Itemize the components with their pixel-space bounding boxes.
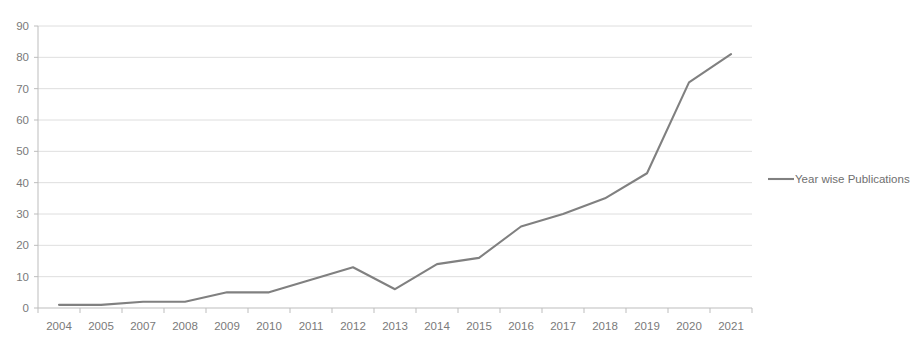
legend-label: Year wise Publications xyxy=(795,173,910,185)
line-chart: 0102030405060708090 20042005200720082009… xyxy=(0,0,924,341)
x-tick-label: 2009 xyxy=(214,320,240,332)
y-tick-label: 20 xyxy=(16,239,29,251)
x-axis-tick-labels: 2004200520072008200920102011201220132014… xyxy=(46,320,744,332)
x-tick-label: 2017 xyxy=(550,320,576,332)
x-tick-label: 2005 xyxy=(88,320,114,332)
x-tick-label: 2007 xyxy=(130,320,156,332)
x-tick-label: 2010 xyxy=(256,320,282,332)
y-tick-label: 40 xyxy=(16,177,29,189)
chart-background xyxy=(0,0,924,341)
y-tick-label: 10 xyxy=(16,271,29,283)
y-tick-label: 90 xyxy=(16,20,29,32)
x-tick-label: 2004 xyxy=(46,320,72,332)
x-tick-label: 2015 xyxy=(466,320,492,332)
chart-canvas: 0102030405060708090 20042005200720082009… xyxy=(0,0,924,341)
x-tick-label: 2021 xyxy=(718,320,744,332)
x-tick-label: 2014 xyxy=(424,320,450,332)
y-tick-label: 50 xyxy=(16,145,29,157)
x-tick-label: 2008 xyxy=(172,320,198,332)
x-tick-label: 2016 xyxy=(508,320,534,332)
x-tick-label: 2013 xyxy=(382,320,408,332)
y-tick-label: 60 xyxy=(16,114,29,126)
x-tick-label: 2011 xyxy=(299,320,324,332)
x-tick-label: 2018 xyxy=(592,320,618,332)
x-tick-label: 2019 xyxy=(634,320,660,332)
y-tick-label: 80 xyxy=(16,51,29,63)
y-tick-label: 0 xyxy=(23,302,29,314)
y-tick-label: 70 xyxy=(16,83,29,95)
x-tick-label: 2020 xyxy=(676,320,702,332)
y-tick-label: 30 xyxy=(16,208,29,220)
x-tick-label: 2012 xyxy=(340,320,366,332)
